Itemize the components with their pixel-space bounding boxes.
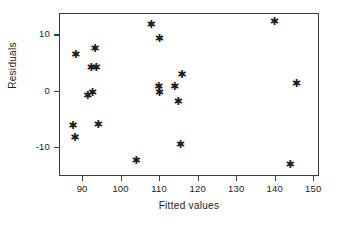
y-axis-label: Residuals: [7, 26, 18, 106]
x-axis-tick-label: 90: [67, 183, 97, 194]
x-axis-tick: [159, 176, 160, 181]
y-axis-tick-label: 10: [18, 28, 50, 39]
x-axis-tick-label: 130: [221, 183, 251, 194]
y-axis-tick: [54, 34, 59, 35]
y-axis-tick-label: -10: [18, 141, 50, 152]
x-axis-tick: [198, 176, 199, 181]
plot-frame: [59, 13, 319, 176]
x-axis-tick-label: 120: [183, 183, 213, 194]
x-axis-tick-label: 150: [298, 183, 328, 194]
x-axis-tick: [121, 176, 122, 181]
x-axis-label: Fitted values: [59, 200, 319, 211]
residuals-vs-fitted-scatter-chart: ✱✱✱✱✱✱✱✱✱✱✱✱✱✱✱✱✱✱✱✱✱ 901001101201301401…: [0, 0, 340, 230]
x-axis-tick: [236, 176, 237, 181]
x-axis-tick: [82, 176, 83, 181]
x-axis-tick-label: 110: [144, 183, 174, 194]
x-axis-tick-label: 140: [260, 183, 290, 194]
y-axis-tick-label: 0: [18, 85, 50, 96]
x-axis-tick-label: 100: [106, 183, 136, 194]
y-axis-tick: [54, 147, 59, 148]
y-axis-tick: [54, 91, 59, 92]
x-axis-tick: [313, 176, 314, 181]
x-axis-tick: [275, 176, 276, 181]
